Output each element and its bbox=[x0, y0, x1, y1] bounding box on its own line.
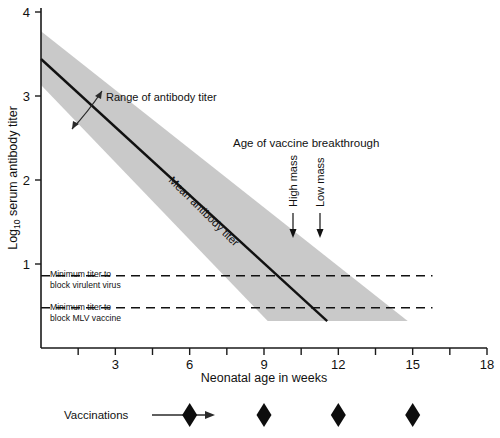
age-of-vaccine-breakthrough-label: Age of vaccine breakthrough bbox=[233, 137, 379, 149]
vaccination-marker-week-6 bbox=[182, 403, 197, 427]
vaccinations-arrow-head bbox=[205, 411, 215, 419]
high-mass-annotation: High mass bbox=[287, 155, 299, 238]
threshold-label-mlv-vaccine: Minimum titer to block MLV vaccine bbox=[50, 302, 121, 323]
vaccinations-row: Vaccinations bbox=[64, 403, 420, 427]
vaccination-marker-week-12 bbox=[331, 403, 346, 427]
x-tick-label-9: 9 bbox=[260, 357, 267, 372]
y-axis-title-subscript: 10 bbox=[12, 219, 22, 229]
y-tick-label-4: 4 bbox=[23, 5, 30, 20]
x-tick-label-12: 12 bbox=[331, 357, 345, 372]
x-tick-label-18: 18 bbox=[480, 357, 494, 372]
y-tick-label-1: 1 bbox=[23, 257, 30, 272]
high-mass-label: High mass bbox=[287, 155, 299, 207]
chart-canvas: 1234 369121518 Log10 serum antibody tite… bbox=[0, 0, 500, 438]
svg-text:Log10 serum antibody titer: Log10 serum antibody titer bbox=[6, 106, 22, 250]
x-axis-ticks: 369121518 bbox=[78, 348, 494, 372]
antibody-titer-decay-figure: 1234 369121518 Log10 serum antibody tite… bbox=[0, 0, 500, 438]
x-tick-label-6: 6 bbox=[186, 357, 193, 372]
y-axis-title: Log10 serum antibody titer bbox=[6, 106, 22, 250]
range-of-antibody-titer-label: Range of antibody titer bbox=[106, 91, 217, 103]
x-axis-title: Neonatal age in weeks bbox=[201, 371, 327, 385]
threshold-label-virulent-virus: Minimum titer to block virulent virus bbox=[50, 269, 121, 290]
low-mass-arrow-head bbox=[317, 229, 324, 238]
vaccinations-label: Vaccinations bbox=[64, 409, 129, 421]
low-mass-annotation: Low mass bbox=[314, 157, 326, 238]
y-tick-label-3: 3 bbox=[23, 89, 30, 104]
vaccination-marker-week-9 bbox=[257, 403, 272, 427]
x-tick-label-3: 3 bbox=[112, 357, 119, 372]
y-axis-title-rest: serum antibody titer bbox=[6, 106, 20, 219]
vaccination-markers bbox=[182, 403, 420, 427]
threshold-mlv-line2: block MLV vaccine bbox=[50, 313, 121, 323]
y-axis-ticks: 1234 bbox=[23, 5, 41, 272]
threshold-virulent-line2: block virulent virus bbox=[50, 280, 121, 290]
low-mass-label: Low mass bbox=[314, 157, 326, 207]
x-tick-label-15: 15 bbox=[405, 357, 419, 372]
threshold-mlv-line1: Minimum titer to bbox=[50, 302, 111, 312]
y-tick-label-2: 2 bbox=[23, 173, 30, 188]
y-axis-title-base: Log bbox=[6, 229, 20, 250]
vaccination-marker-week-15 bbox=[405, 403, 420, 427]
threshold-virulent-line1: Minimum titer to bbox=[50, 269, 111, 279]
